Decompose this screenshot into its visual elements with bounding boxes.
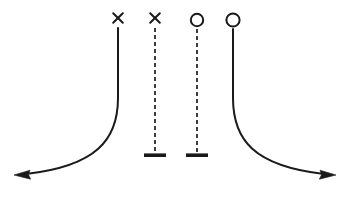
circle-icon [226,13,239,26]
left-asymptotic-curve [26,28,118,174]
markers-group [113,13,239,26]
cross-icon [150,13,160,23]
diagram-canvas [0,0,350,202]
inner-dashed-line-cross-group [144,28,166,155]
cross-icon [113,13,123,23]
circle-icon [191,14,203,26]
diagram-svg [0,0,350,202]
left-asymptotic-curve-group [14,28,118,179]
right-asymptotic-curve-group [233,29,336,179]
right-asymptotic-curve [233,29,324,174]
right-arrowhead [319,170,336,179]
inner-dashed-line-circle-group [186,29,208,155]
left-arrowhead [14,170,31,179]
